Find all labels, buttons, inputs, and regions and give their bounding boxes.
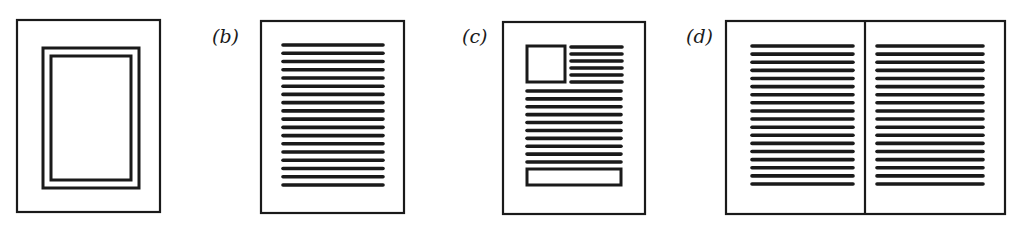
panel-label-d: (d) bbox=[686, 27, 713, 46]
panel-a bbox=[17, 20, 160, 212]
inner-frame-1 bbox=[43, 48, 139, 188]
panel-c bbox=[503, 22, 645, 214]
panel-d bbox=[726, 21, 1005, 214]
page-layout-diagram: (b) (c) (d) bbox=[0, 0, 1014, 236]
image-placeholder-box bbox=[527, 46, 565, 82]
panel-label-b: (b) bbox=[212, 27, 239, 46]
inner-frame-2 bbox=[51, 56, 131, 180]
caption-box bbox=[527, 169, 621, 185]
diagram-canvas bbox=[0, 0, 1014, 236]
panel-b bbox=[261, 21, 404, 213]
panel-label-c: (c) bbox=[462, 27, 487, 46]
